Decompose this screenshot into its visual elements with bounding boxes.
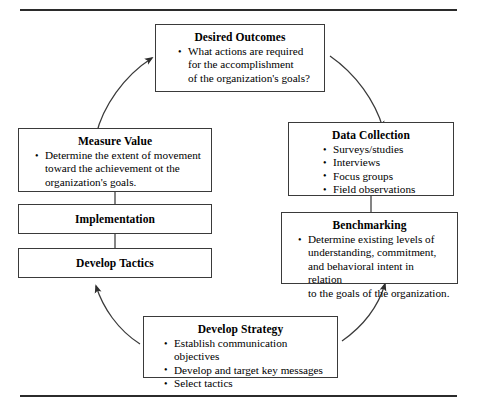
arc-measure-to-desired xyxy=(96,58,152,135)
box-title: Data Collection xyxy=(296,128,446,142)
bullet-item: Determine existing levels of understandi… xyxy=(297,233,450,300)
box-bullets: What actions are required for the accomp… xyxy=(163,45,317,85)
box-title: Benchmarking xyxy=(289,218,450,232)
box-title: Desired Outcomes xyxy=(163,30,317,44)
box-title: Develop Tactics xyxy=(76,256,154,270)
bullet-item: Develop and target key messages xyxy=(163,364,330,377)
bullet-item: Determine the extent of movement toward … xyxy=(34,149,204,189)
box-title: Measure Value xyxy=(26,134,204,148)
box-develop-tactics: Develop Tactics xyxy=(18,248,212,278)
bullet-item: What actions are required for the accomp… xyxy=(177,45,317,85)
box-bullets: Determine the extent of movement toward … xyxy=(26,149,204,189)
box-title: Implementation xyxy=(75,212,155,226)
bullet-item: Surveys/studies xyxy=(322,143,446,156)
bullet-item: Field observations xyxy=(322,183,446,196)
bullet-item: Focus groups xyxy=(322,170,446,183)
arc-strategy-to-tactics xyxy=(96,286,140,344)
box-measure-value: Measure Value Determine the extent of mo… xyxy=(18,128,212,192)
box-bullets: Surveys/studies Interviews Focus groups … xyxy=(296,143,446,197)
box-bullets: Determine existing levels of understandi… xyxy=(289,233,450,300)
box-data-collection: Data Collection Surveys/studies Intervie… xyxy=(288,122,454,196)
box-benchmarking: Benchmarking Determine existing levels o… xyxy=(281,212,458,284)
box-bullets: Establish communication objectives Devel… xyxy=(151,337,330,391)
arc-desired-to-data xyxy=(330,56,383,128)
box-title: Develop Strategy xyxy=(151,322,330,336)
box-desired-outcomes: Desired Outcomes What actions are requir… xyxy=(155,24,325,92)
bullet-item: Interviews xyxy=(322,156,446,169)
box-develop-strategy: Develop Strategy Establish communication… xyxy=(143,316,338,378)
bullet-item: Select tactics xyxy=(163,377,330,390)
box-implementation: Implementation xyxy=(18,204,212,234)
diagram-page: Desired Outcomes What actions are requir… xyxy=(0,0,477,415)
bullet-item: Establish communication objectives xyxy=(163,337,330,364)
